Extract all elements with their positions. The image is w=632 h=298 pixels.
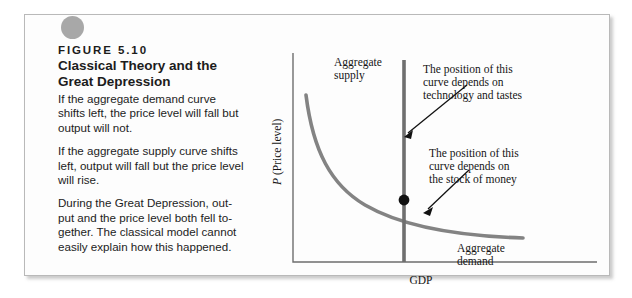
aggregate-supply-label-line-1: Aggregate [334,56,382,69]
aggregate-supply-label-line-2: supply [334,69,365,82]
caption-paragraph-1: If the aggregate demand curve shifts lef… [58,92,244,135]
aggregate-demand-label-line-2: demand [457,255,494,267]
equilibrium-point [399,195,410,206]
chart-area: Aggregate supply Aggregate demand The po… [261,33,621,289]
figure-title-line-2: Great Depression [58,74,171,89]
caption-paragraph-3: During the Great Depression, out-put and… [58,196,244,254]
x-axis-title: GDP [409,274,432,286]
figure-page: FIGURE 5.10 Classical Theory and the Gre… [0,0,632,298]
aggregate-demand-note-line-2: curve depends on [429,160,510,173]
caption-paragraph-2: If the aggregate supply curve shifts lef… [58,144,244,187]
figure-caption-block: FIGURE 5.10 Classical Theory and the Gre… [58,43,244,263]
aggregate-supply-note-line-1: The position of this [423,63,513,76]
aggregate-supply-note-line-2: curve depends on [423,76,504,89]
aggregate-demand-label-line-1: Aggregate [457,242,505,255]
aggregate-demand-note-line-1: The position of this [429,147,519,160]
aggregate-supply-note-line-3: technology and tastes [423,89,523,102]
y-axis-title: P (Price level) [271,118,284,186]
chart-svg: Aggregate supply Aggregate demand The po… [261,33,621,289]
figure-panel: FIGURE 5.10 Classical Theory and the Gre… [24,14,610,276]
y-axis-title-symbol: P [271,178,283,186]
figure-title-line-1: Classical Theory and the [58,58,217,73]
aggregate-demand-note-line-3: the stock of money [429,173,517,186]
figure-title: Classical Theory and the Great Depressio… [58,58,244,89]
panel-tab-dot-icon [61,16,84,39]
y-axis-title-rest: (Price level) [271,118,284,178]
figure-number: FIGURE 5.10 [58,43,244,57]
